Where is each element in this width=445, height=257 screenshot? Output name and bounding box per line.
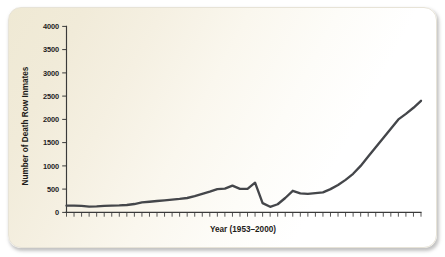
y-tick-label: 1500 — [43, 138, 59, 147]
y-axis-title: Number of Death Row Inmates — [21, 66, 30, 185]
y-tick-label: 2000 — [43, 115, 59, 124]
x-axis-title: Year (1953–2000) — [210, 225, 276, 234]
y-tick-label: 4000 — [43, 22, 59, 31]
y-tick-label: 3000 — [43, 69, 59, 78]
x-tick-marks — [67, 212, 422, 216]
line-chart: Number of Death Row Inmates 4000 3500 30… — [9, 8, 437, 248]
y-tick-label: 2500 — [43, 92, 59, 101]
y-tick-marks — [62, 26, 66, 212]
y-tick-label: 3500 — [43, 45, 59, 54]
data-series-line — [67, 101, 422, 207]
figure-card: Number of Death Row Inmates 4000 3500 30… — [8, 7, 437, 248]
y-tick-label: 500 — [47, 185, 59, 194]
y-tick-label: 1000 — [43, 162, 59, 171]
y-tick-label: 0 — [55, 208, 59, 217]
